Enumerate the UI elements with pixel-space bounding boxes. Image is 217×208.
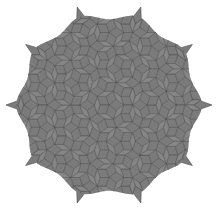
- penrose-tiling: [0, 0, 217, 208]
